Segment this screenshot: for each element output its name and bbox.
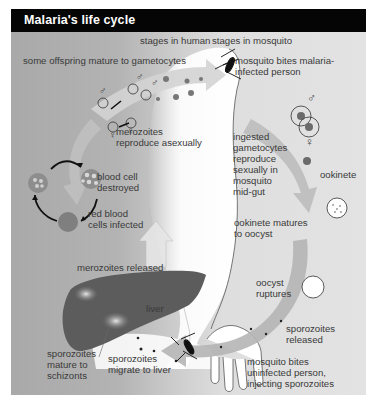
label-ookinete: ookinete: [320, 169, 356, 180]
diagram-frame: Malaria's life cycle: [11, 9, 366, 395]
label-gametocytes: some offspring mature to gametocytes: [23, 55, 186, 66]
label-oocyst-ruptures: oocyst ruptures: [256, 277, 291, 299]
male-symbol-2: ♂: [151, 77, 159, 88]
label-sporozoites-mature: sporozoites mature to schizonts: [47, 348, 96, 381]
label-ookinete-matures: ookinete matures to oocyst: [234, 217, 308, 239]
label-bites-infected: mosquito bites malaria- infected person: [235, 55, 334, 77]
section-label-human: stages in human: [140, 35, 210, 46]
male-symbol-mosquito: ♂: [307, 93, 316, 104]
label-sporozoites-released: sporozoites released: [286, 323, 335, 345]
male-symbol-1: ♂: [136, 71, 144, 82]
oocyst: [302, 198, 347, 298]
label-bites-uninfected: mosquito bites uninfected person, inject…: [247, 356, 334, 389]
label-merozoites-released: merozoites released: [77, 262, 163, 273]
female-symbol-1: ♀: [109, 129, 117, 140]
female-symbol-2: ♀: [127, 125, 135, 136]
male-symbol-3: ♂: [99, 85, 107, 96]
label-blood-cell-destroyed: blood cell destroyed: [97, 171, 139, 193]
section-label-mosquito: stages in mosquito: [212, 35, 292, 46]
label-sporozoites-migrate: sporozoites migrate to liver: [108, 353, 171, 375]
label-liver: liver: [146, 303, 164, 314]
female-symbol-mosquito: ♀: [305, 137, 314, 148]
label-ingested-gametocytes: ingested gametocytes reproduce sexually …: [233, 131, 287, 197]
label-red-blood-cells-infected: red blood cells infected: [88, 208, 143, 230]
